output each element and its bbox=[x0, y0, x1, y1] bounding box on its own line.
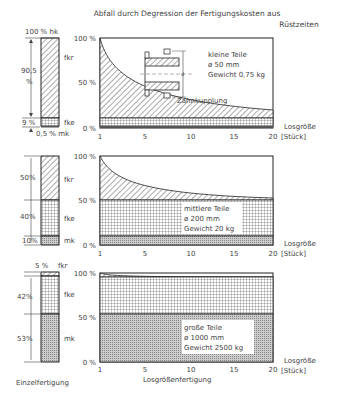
pct-label-fkr: 90,5 bbox=[21, 67, 37, 75]
svg-text:15: 15 bbox=[230, 133, 239, 141]
svg-text:Losgröße: Losgröße bbox=[284, 240, 316, 248]
svg-text:5: 5 bbox=[143, 366, 147, 374]
svg-text:Gewicht 2500 kg: Gewicht 2500 kg bbox=[184, 344, 243, 352]
svg-text:5 %: 5 % bbox=[35, 262, 49, 270]
note-line2: ø 50 mm bbox=[208, 61, 239, 69]
svg-text:10: 10 bbox=[187, 133, 196, 141]
left-caption: Einzelfertigung bbox=[16, 379, 69, 387]
svg-text:[Stück]: [Stück] bbox=[281, 250, 306, 258]
title-line2: Rüstzeiten bbox=[279, 20, 319, 29]
x-axis-caption: Losgrößenfertigung bbox=[143, 376, 211, 384]
svg-text:ø 1000 mm: ø 1000 mm bbox=[184, 334, 224, 342]
svg-text:40%: 40% bbox=[20, 213, 36, 221]
svg-text:d: d bbox=[181, 71, 184, 77]
svg-text:ø 200 mm: ø 200 mm bbox=[184, 215, 220, 223]
svg-text:15: 15 bbox=[230, 366, 239, 374]
panel-large-parts: 5 % fkr 42% 53% fke mk 100 % 50 % 0 % gr… bbox=[16, 262, 316, 387]
note-line3: Gewicht 0,75 kg bbox=[208, 71, 265, 79]
svg-text:100 %: 100 % bbox=[74, 153, 97, 161]
svg-text:fkr: fkr bbox=[64, 176, 74, 184]
label-fkr: fkr bbox=[64, 54, 74, 62]
svg-text:50 %: 50 % bbox=[78, 197, 96, 205]
cost-degression-diagram: Abfall durch Degression der Fertigungsko… bbox=[0, 0, 341, 402]
part-label: Zahnkupplung bbox=[177, 97, 227, 105]
svg-text:große Teile: große Teile bbox=[184, 324, 222, 332]
pct-label-mk: 0,5 % mk bbox=[36, 130, 70, 138]
panel-small-parts: 100 % hk 90,5 % 9 % 0,5 % mk fkr fke 100… bbox=[21, 28, 316, 141]
svg-text:0 %: 0 % bbox=[83, 242, 97, 250]
svg-text:mk: mk bbox=[64, 237, 76, 245]
svg-text:5: 5 bbox=[143, 250, 147, 258]
bar-segment-fke bbox=[41, 118, 59, 126]
svg-text:mk: mk bbox=[64, 335, 76, 343]
svg-text:fke: fke bbox=[64, 291, 75, 299]
svg-text:50 %: 50 % bbox=[78, 314, 96, 322]
panel-medium-parts: 50% 40% 10% fkr fke mk 100 % 50 % 0 % mi… bbox=[20, 153, 316, 258]
svg-text:Losgröße: Losgröße bbox=[284, 357, 316, 365]
svg-text:20: 20 bbox=[269, 366, 278, 374]
svg-text:[Stück]: [Stück] bbox=[281, 367, 306, 375]
bar-segment-mk bbox=[41, 126, 59, 128]
svg-text:mittlere Teile: mittlere Teile bbox=[184, 205, 229, 213]
svg-text:[Stück]: [Stück] bbox=[281, 133, 306, 141]
svg-text:0 %: 0 % bbox=[83, 359, 97, 367]
svg-text:1: 1 bbox=[98, 366, 102, 374]
label-fke: fke bbox=[64, 119, 75, 127]
svg-text:Losgröße: Losgröße bbox=[284, 123, 316, 131]
svg-text:100 %: 100 % bbox=[74, 35, 97, 43]
svg-text:5: 5 bbox=[143, 133, 147, 141]
area-mk bbox=[100, 126, 273, 128]
svg-text:100 %: 100 % bbox=[74, 270, 97, 278]
svg-text:1: 1 bbox=[98, 250, 102, 258]
title-line1: Abfall durch Degression der Fertigungsko… bbox=[94, 9, 281, 18]
pct-label-fke: 9 % bbox=[22, 119, 36, 127]
bar-segment-fkr bbox=[41, 38, 59, 118]
svg-text:50 %: 50 % bbox=[78, 79, 96, 87]
svg-text:10: 10 bbox=[187, 366, 196, 374]
svg-text:fkr: fkr bbox=[58, 262, 68, 270]
svg-text:53%: 53% bbox=[17, 335, 33, 343]
bar-top-label: 100 % hk bbox=[25, 28, 59, 36]
svg-text:%: % bbox=[26, 78, 33, 86]
svg-text:10: 10 bbox=[187, 250, 196, 258]
svg-text:0 %: 0 % bbox=[83, 125, 97, 133]
svg-text:Gewicht 20 kg: Gewicht 20 kg bbox=[184, 225, 234, 233]
svg-text:50%: 50% bbox=[20, 174, 36, 182]
svg-text:20: 20 bbox=[269, 250, 278, 258]
svg-text:20: 20 bbox=[269, 133, 278, 141]
svg-text:15: 15 bbox=[230, 250, 239, 258]
svg-text:10%: 10% bbox=[22, 237, 38, 245]
svg-text:42%: 42% bbox=[17, 293, 33, 301]
note-line1: kleine Teile bbox=[208, 51, 247, 59]
svg-text:1: 1 bbox=[98, 133, 102, 141]
area-fke bbox=[100, 118, 273, 126]
svg-text:fke: fke bbox=[64, 215, 75, 223]
